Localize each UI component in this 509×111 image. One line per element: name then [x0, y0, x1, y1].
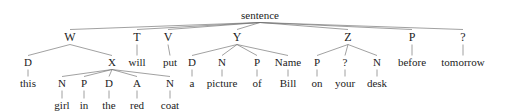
tree-node-Ncoat: N — [166, 78, 174, 89]
tree-node-girl: girl — [54, 100, 69, 111]
tree-node-your: your — [335, 78, 355, 89]
tree-edge-X-to-Ared — [112, 70, 137, 77]
tree-edge-W-to-Dthis — [28, 45, 70, 56]
tree-node-sentence: sentence — [241, 10, 279, 21]
tree-edge-Z-to-Ndesk — [348, 45, 377, 56]
tree-node-picture: picture — [207, 78, 238, 89]
tree-edge-sentence-to-W — [70, 23, 260, 30]
tree-node-of: of — [252, 78, 261, 89]
tree-node-Dthe: D — [105, 78, 113, 89]
tree-node-Pof: P — [254, 57, 260, 68]
tree-node-W: W — [64, 31, 75, 43]
tree-node-put: put — [163, 57, 177, 68]
tree-node-Da: D — [188, 57, 196, 68]
tree-node-red: red — [130, 100, 144, 111]
tree-node-Qtom: ? — [460, 31, 465, 43]
tree-node-a: a — [190, 78, 195, 89]
tree-node-coat: coat — [161, 100, 179, 111]
tree-node-Qyour: ? — [343, 57, 348, 68]
tree-node-this: this — [20, 78, 36, 89]
tree-edge-X-to-Ncoat — [112, 70, 170, 77]
tree-node-before: before — [398, 57, 426, 68]
tree-node-Ndesk: N — [373, 57, 381, 68]
tree-node-Pon: P — [314, 57, 320, 68]
tree-edge-Y-to-Da — [192, 45, 237, 56]
tree-edge-Z-to-Pon — [317, 45, 348, 56]
tree-node-T: T — [133, 31, 140, 43]
tree-edge-V-to-put — [168, 45, 170, 56]
tree-node-NameBill: Name — [275, 57, 301, 68]
tree-edge-sentence-to-Qtom — [260, 23, 463, 30]
tree-node-Pbefore: P — [409, 31, 416, 43]
tree-edge-Z-to-Qyour — [345, 45, 348, 56]
tree-node-on: on — [312, 78, 323, 89]
tree-node-Npicture: N — [218, 57, 226, 68]
tree-node-the: the — [102, 100, 115, 111]
tree-node-desk: desk — [367, 78, 387, 89]
tree-node-Bill: Bill — [280, 78, 297, 89]
tree-node-Dthis: D — [24, 57, 32, 68]
tree-edge-X-to-Dthe — [109, 70, 112, 77]
tree-node-Y: Y — [233, 31, 242, 43]
tree-edge-W-to-X — [70, 45, 112, 56]
tree-node-V: V — [164, 31, 173, 43]
tree-edge-Y-to-Pof — [237, 45, 257, 56]
tree-node-in: in — [80, 100, 89, 111]
tree-node-Z: Z — [344, 31, 351, 43]
tree-node-tomorrow: tomorrow — [441, 57, 484, 68]
tree-node-Pin: P — [81, 78, 87, 89]
tree-node-will: will — [128, 57, 145, 68]
tree-node-X: X — [108, 57, 116, 68]
tree-node-Ngirl: N — [58, 78, 66, 89]
tree-node-Ared: A — [133, 78, 141, 89]
tree-edge-sentence-to-V — [168, 23, 260, 30]
tree-edge-Y-to-NameBill — [237, 45, 288, 56]
syntax-tree-diagram: sentenceWTVYZP?DXwillputDNPNameP?Nbefore… — [0, 0, 509, 111]
